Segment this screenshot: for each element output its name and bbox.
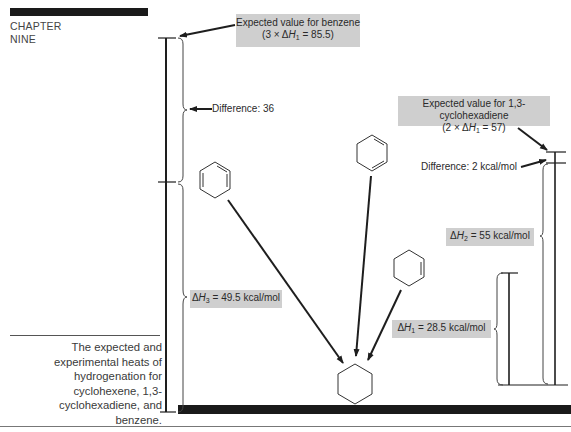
diene-expected-line1: Expected value for 1,3-cyclohexadiene xyxy=(398,98,550,122)
diene-difference-arrow xyxy=(521,160,546,167)
cyclohexene-structure-icon xyxy=(394,250,424,286)
benzene-difference-label: Difference: 36 xyxy=(212,103,274,114)
diene-expected-bar xyxy=(546,152,566,385)
diene-expected-label: Expected value for 1,3-cyclohexadiene (2… xyxy=(398,96,550,126)
benzene-expected-label: Expected value for benzene (3 × ΔH1 = 85… xyxy=(236,14,360,47)
benzene-dH3-brace xyxy=(178,184,187,412)
benzene-expected-bar xyxy=(158,38,176,412)
diene-difference-label: Difference: 2 kcal/mol xyxy=(421,161,517,172)
diene-expected-line2: (2 × ΔH1 = 57) xyxy=(398,122,550,137)
diene-reaction-arrow xyxy=(356,176,371,356)
benzene-expected-line1: Expected value for benzene xyxy=(236,17,360,29)
cyclohexane-structure-icon xyxy=(338,364,372,404)
energy-diagram xyxy=(0,0,571,432)
diene-experimental-brace xyxy=(540,164,548,384)
benzene-expected-line2: (3 × ΔH1 = 85.5) xyxy=(236,29,360,44)
benzene-reaction-arrow xyxy=(228,200,343,363)
cyclohexene-brace xyxy=(494,273,503,385)
cyclohexadiene-structure-icon xyxy=(357,135,387,171)
benzene-structure-icon xyxy=(200,162,230,198)
dH2-label: ΔH2 = 55 kcal/mol xyxy=(446,228,534,246)
cyclohexene-bar xyxy=(498,273,568,385)
benzene-expected-arrow xyxy=(180,25,235,36)
dH1-label: ΔH1 = 28.5 kcal/mol xyxy=(392,320,491,338)
benzene-difference-brace xyxy=(178,38,187,182)
dH3-label: ΔH3 = 49.5 kcal/mol xyxy=(190,290,282,308)
